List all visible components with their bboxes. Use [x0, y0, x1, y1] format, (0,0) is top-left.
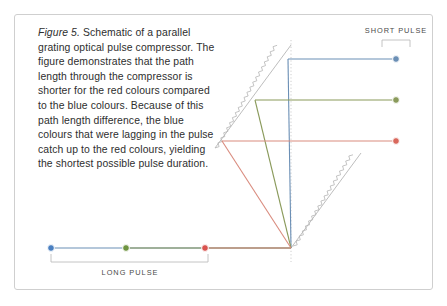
blue-ray	[48, 56, 400, 252]
blue-ray-diffracted-segment	[288, 59, 291, 248]
green-ray	[123, 97, 400, 252]
compressor-diagram: LONG PULSE SHORT PULSE	[0, 0, 447, 306]
upper-grating	[215, 45, 291, 148]
red-input-dot	[202, 245, 209, 252]
long-pulse-bracket	[51, 254, 208, 262]
figure-container: Figure 5. Schematic of a parallel gratin…	[0, 0, 447, 306]
short-pulse-label: SHORT PULSE	[365, 26, 427, 35]
upper-grating-baseline	[215, 45, 291, 148]
blue-output-dot	[393, 56, 400, 63]
green-input-dot	[123, 245, 130, 252]
long-pulse-label: LONG PULSE	[102, 268, 159, 277]
green-ray-diffracted-segment	[255, 100, 291, 248]
short-pulse-bracket	[382, 40, 410, 47]
red-ray-diffracted-segment	[222, 141, 291, 248]
red-ray	[202, 138, 400, 252]
upper-grating-teeth	[215, 45, 277, 148]
green-output-dot	[393, 97, 400, 104]
lower-grating	[291, 153, 361, 248]
lower-grating-baseline	[291, 153, 361, 248]
red-output-dot	[393, 138, 400, 145]
blue-input-dot	[48, 245, 55, 252]
